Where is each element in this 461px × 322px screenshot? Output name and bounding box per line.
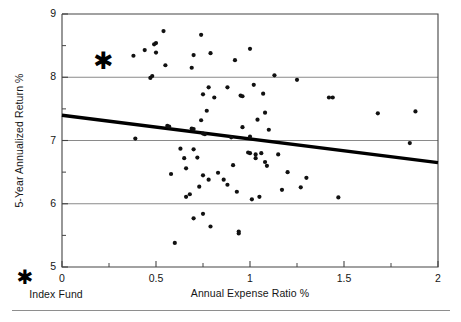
star-icon-legend: ✱ — [16, 268, 34, 286]
y-tick-label: 9 — [40, 7, 56, 19]
svg-text:✱: ✱ — [93, 47, 113, 75]
data-points — [131, 29, 417, 245]
y-tick-label: 5 — [40, 260, 56, 272]
footer-rule — [12, 310, 450, 311]
y-tick-label: 7 — [40, 134, 56, 146]
x-tick-label: 1 — [237, 272, 263, 284]
trendline — [62, 115, 438, 162]
star-icon-datapoint: ✱ — [93, 47, 113, 75]
x-tick-label: 0.5 — [143, 272, 169, 284]
y-tick-label: 6 — [40, 197, 56, 209]
y-axis-label: 5-Year Annualized Return % — [8, 14, 30, 267]
x-axis-label: Annual Expense Ratio % — [62, 287, 438, 299]
x-tick-label: 0 — [49, 272, 75, 284]
scatter-plot-figure: 5-Year Annualized Return % Annual Expens… — [0, 0, 461, 322]
legend-index-fund-label: Index Fund — [8, 288, 104, 300]
x-tick-label: 2 — [425, 272, 451, 284]
x-tick-label: 1.5 — [331, 272, 357, 284]
y-tick-label: 8 — [40, 70, 56, 82]
